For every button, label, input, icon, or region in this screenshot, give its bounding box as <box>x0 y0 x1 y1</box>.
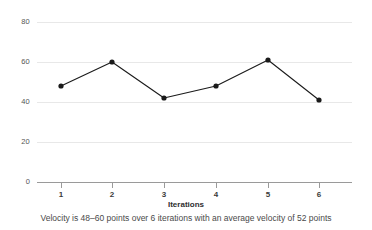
x-axis-tick-mark-2 <box>112 182 113 188</box>
y-axis-tick-label-40: 40 <box>4 98 30 106</box>
x-axis-tick-label-6: 6 <box>308 190 330 200</box>
y-axis-tick-label-20: 20 <box>4 138 30 146</box>
x-axis-tick-label-1: 1 <box>50 190 72 200</box>
x-axis-tick-label-5: 5 <box>257 190 279 200</box>
gridline-60 <box>37 62 352 63</box>
y-axis-tick-label-60: 60 <box>4 58 30 66</box>
x-axis-tick-label-4: 4 <box>205 190 227 200</box>
plot-area <box>37 22 352 182</box>
y-axis-tick-label-80: 80 <box>4 18 30 26</box>
x-axis-tick-mark-1 <box>61 182 62 188</box>
x-axis-tick-mark-3 <box>164 182 165 188</box>
gridline-80 <box>37 22 352 23</box>
x-axis-tick-mark-6 <box>319 182 320 188</box>
velocity-line-chart: 80 60 40 20 0 1 2 3 4 5 6 Iterations Vel… <box>0 0 372 230</box>
x-axis-tick-mark-4 <box>216 182 217 188</box>
x-axis-tick-label-2: 2 <box>101 190 123 200</box>
x-axis-line <box>37 182 352 183</box>
x-axis-tick-mark-5 <box>268 182 269 188</box>
chart-caption: Velocity is 48–60 points over 6 iteratio… <box>0 213 372 224</box>
x-axis-title: Iterations <box>0 200 372 210</box>
x-axis-tick-label-3: 3 <box>153 190 175 200</box>
gridline-20 <box>37 142 352 143</box>
y-axis-tick-label-0: 0 <box>4 178 30 186</box>
gridline-40 <box>37 102 352 103</box>
